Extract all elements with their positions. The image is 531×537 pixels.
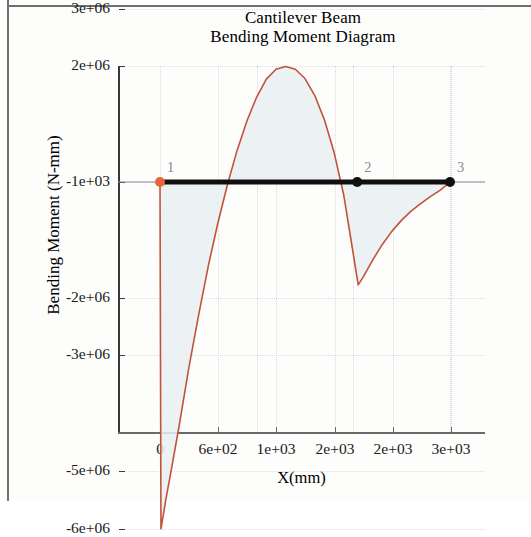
moment-area-fill <box>160 66 450 528</box>
y-tick-mark <box>119 529 125 530</box>
node-marker <box>445 177 455 187</box>
plot-area: 3e+062e+06-1e+03-2e+06-3e+06-5e+06-6e+06… <box>118 66 485 433</box>
figure-title: Cantilever Beam Bending Moment Diagram <box>118 8 488 47</box>
chart-canvas <box>118 66 485 434</box>
gridline-horizontal <box>119 529 485 531</box>
node-label: 1 <box>167 159 174 176</box>
y-tick-label: -2e+06 <box>66 288 110 306</box>
figure-title-line-2: Bending Moment Diagram <box>118 27 488 46</box>
gridline-horizontal <box>119 9 485 11</box>
y-axis-title: Bending Moment (N-mm) <box>44 75 64 375</box>
y-tick-label: -3e+06 <box>66 345 110 363</box>
node-marker <box>352 177 362 187</box>
node-marker <box>155 177 165 187</box>
y-tick-label: 2e+06 <box>71 56 110 74</box>
node-label: 2 <box>364 159 371 176</box>
y-tick-label: 3e+06 <box>71 0 110 17</box>
y-tick-label: -1e+03 <box>66 172 110 190</box>
y-tick-label: -5e+06 <box>66 461 110 479</box>
y-tick-label: -6e+06 <box>66 519 110 537</box>
x-axis-title: X(mm) <box>118 468 485 488</box>
y-tick-mark <box>119 9 125 10</box>
figure-title-line-1: Cantilever Beam <box>118 8 488 27</box>
x-tick-label: 3e+03 <box>416 440 486 458</box>
node-label: 3 <box>457 159 464 176</box>
